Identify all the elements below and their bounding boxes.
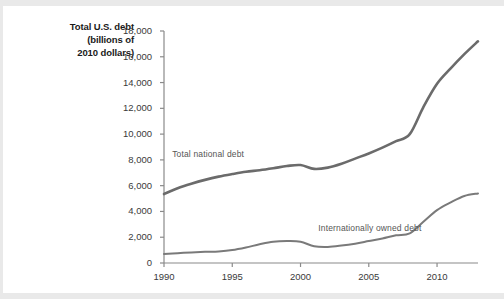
y-axis-tick-label: 8,000 bbox=[102, 155, 152, 165]
y-axis-tick-label: 12,000 bbox=[102, 103, 152, 113]
x-axis-tick-label: 2010 bbox=[417, 272, 457, 282]
plot-canvas bbox=[0, 0, 504, 299]
y-axis-tick-label: 18,000 bbox=[102, 26, 152, 36]
series-annotation-total-national-debt: Total national debt bbox=[172, 149, 244, 159]
x-axis-tick-label: 2000 bbox=[281, 272, 321, 282]
y-axis-tick-label: 2,000 bbox=[102, 232, 152, 242]
series-annotation-internationally-owned-debt: Internationally owned debt bbox=[318, 223, 421, 233]
x-axis-tick-label: 2005 bbox=[349, 272, 389, 282]
series-line-total-national-debt bbox=[164, 41, 478, 194]
x-axis-tick-label: 1995 bbox=[212, 272, 252, 282]
x-axis-tick-label: 1990 bbox=[144, 272, 184, 282]
y-axis-tick-label: 6,000 bbox=[102, 181, 152, 191]
y-axis-tick-label: 0 bbox=[102, 258, 152, 268]
y-axis-tick-label: 10,000 bbox=[102, 129, 152, 139]
y-axis-tick-label: 14,000 bbox=[102, 78, 152, 88]
y-axis-tick-label: 16,000 bbox=[102, 52, 152, 62]
chart-figure: Total U.S. debt (billions of 2010 dollar… bbox=[0, 0, 504, 299]
y-axis-tick-label: 4,000 bbox=[102, 206, 152, 216]
